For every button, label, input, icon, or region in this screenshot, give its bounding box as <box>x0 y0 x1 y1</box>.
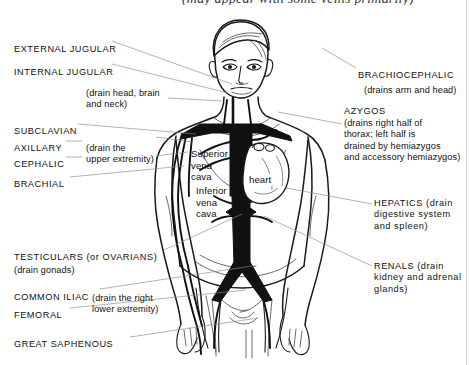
heart-label-layer: heart <box>0 0 471 365</box>
diagram-page: (may appear with some veins primarily) .… <box>0 0 471 365</box>
label-heart-overlay: heart <box>248 174 272 186</box>
